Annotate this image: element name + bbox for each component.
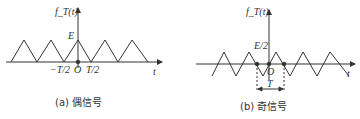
y-axis-label-b: f_T(t) <box>246 6 269 17</box>
panel-b-odd-signal <box>196 10 355 92</box>
waveform-diagrams <box>0 0 360 119</box>
panel-a-even-signal <box>6 8 162 68</box>
x-axis-label-a: t <box>153 66 156 77</box>
triangle-wave-a <box>11 40 148 62</box>
peak-label-a: E <box>68 30 74 41</box>
y-axis-label-a: f_T(t) <box>55 6 78 17</box>
caption-a: (a) 偶信号 <box>55 94 102 109</box>
peak-label-b: E/2 <box>254 40 268 51</box>
origin-label-a: O <box>74 64 81 75</box>
x-axis-label-b: t <box>347 68 350 79</box>
origin-label-b: O <box>267 66 274 77</box>
tick-pos-half-period: T/2 <box>86 64 99 75</box>
caption-b: (b) 奇信号 <box>240 98 287 113</box>
tick-neg-half-period: −T/2 <box>50 64 70 75</box>
period-label-b: T <box>267 78 273 89</box>
